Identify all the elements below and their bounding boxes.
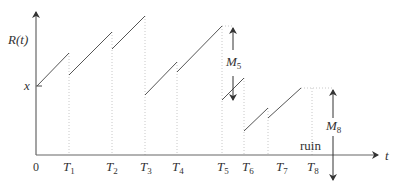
time-guides [69, 16, 333, 155]
x-axis-label: t [385, 148, 389, 163]
svg-text:T3: T3 [140, 159, 152, 176]
svg-text:T6: T6 [242, 159, 254, 176]
process-path [37, 16, 301, 131]
svg-text:T2: T2 [106, 159, 118, 176]
ruin-label: ruin [300, 138, 321, 153]
axes [36, 12, 378, 155]
origin-label: 0 [33, 160, 39, 174]
m8-label: M8 [325, 118, 342, 135]
time-labels: T1 T2 T3 T4 T5 T6 T7 T8 [63, 159, 319, 176]
svg-text:T5: T5 [217, 159, 229, 176]
svg-text:T4: T4 [172, 159, 184, 176]
svg-text:T7: T7 [276, 159, 288, 176]
svg-text:T1: T1 [63, 159, 75, 176]
svg-text:T8: T8 [307, 159, 319, 176]
m5-label: M5 [225, 54, 242, 71]
y-axis-label: R(t) [7, 32, 28, 47]
initial-level-label: x [23, 78, 30, 93]
risk-process-diagram: R(t) t 0 x T1 T2 T3 T4 T5 T6 T7 T8 M5 M8… [0, 0, 400, 187]
